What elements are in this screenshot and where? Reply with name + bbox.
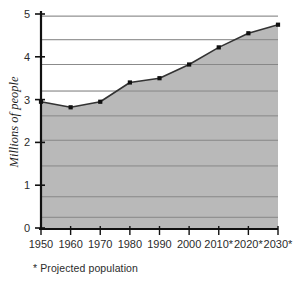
data-point [98, 100, 102, 104]
population-area-chart: 012345 1950196019701980199020002010*2020… [0, 0, 294, 281]
x-tick-label: 1970 [88, 238, 112, 250]
y-tick-label: 3 [24, 94, 30, 106]
x-tick-label: 1950 [29, 238, 53, 250]
y-tick-label: 1 [24, 179, 30, 191]
x-tick-label: 1960 [58, 238, 82, 250]
data-point [217, 45, 221, 49]
data-point [187, 62, 191, 66]
y-tick-label: 2 [24, 136, 30, 148]
x-tick-label: 2020* [234, 238, 263, 250]
data-point [69, 105, 73, 109]
x-tick-label: 2030* [264, 238, 293, 250]
y-tick-label: 4 [24, 51, 30, 63]
x-tick-label: 2010* [204, 238, 233, 250]
data-point [276, 23, 280, 27]
x-tick-label: 2000 [177, 238, 201, 250]
x-tick-label: 1990 [147, 238, 171, 250]
x-tick-label: 1980 [118, 238, 142, 250]
y-axis-title: Millions of people [7, 76, 21, 168]
y-tick-label: 5 [24, 8, 30, 20]
chart-footnote: * Projected population [33, 262, 138, 274]
y-tick-label: 0 [24, 222, 30, 234]
data-point [128, 80, 132, 84]
data-point [246, 31, 250, 35]
chart-canvas: 012345 1950196019701980199020002010*2020… [0, 0, 294, 281]
data-point [157, 76, 161, 80]
